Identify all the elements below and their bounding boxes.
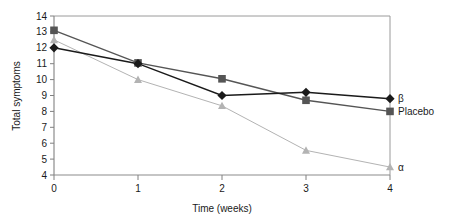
x-axis-ticks <box>54 175 390 180</box>
y-tick-label: 4 <box>41 170 47 181</box>
data-point-marker <box>50 36 58 43</box>
x-tick-label: 3 <box>303 183 309 194</box>
line-chart: 4567891011121314 01234 βPlaceboα Time (w… <box>0 0 453 219</box>
y-tick-label: 9 <box>41 90 47 101</box>
data-point-marker <box>386 108 394 116</box>
y-tick-label: 8 <box>41 106 47 117</box>
x-tick-label: 0 <box>51 183 57 194</box>
y-tick-label: 12 <box>36 42 48 53</box>
x-tick-label: 1 <box>135 183 141 194</box>
series-label-alpha: α <box>398 162 404 173</box>
x-tick-label: 2 <box>219 183 225 194</box>
data-point-marker <box>134 76 142 83</box>
chart-container: 4567891011121314 01234 βPlaceboα Time (w… <box>0 0 453 219</box>
y-axis-title: Total symptoms <box>11 61 22 130</box>
series-labels: βPlaceboα <box>398 93 435 172</box>
y-tick-label: 10 <box>36 74 48 85</box>
x-axis-title: Time (weeks) <box>192 203 252 214</box>
data-point-marker <box>218 75 226 83</box>
y-axis-tick-labels: 4567891011121314 <box>36 11 48 181</box>
data-point-marker <box>301 88 310 97</box>
data-point-marker <box>302 146 310 153</box>
series-label-beta: β <box>398 93 404 104</box>
data-point-marker <box>49 43 58 52</box>
x-tick-label: 4 <box>387 183 393 194</box>
series-label-placebo: Placebo <box>398 106 435 117</box>
y-tick-label: 14 <box>36 11 48 22</box>
x-axis-tick-labels: 01234 <box>51 183 393 194</box>
y-tick-label: 5 <box>41 154 47 165</box>
data-point-marker <box>385 94 394 103</box>
data-point-marker <box>50 27 58 35</box>
y-tick-label: 7 <box>41 122 47 133</box>
data-point-marker <box>302 96 310 104</box>
y-tick-label: 6 <box>41 138 47 149</box>
y-tick-label: 11 <box>37 58 48 69</box>
data-point-marker <box>217 91 226 100</box>
y-tick-label: 13 <box>36 26 48 37</box>
